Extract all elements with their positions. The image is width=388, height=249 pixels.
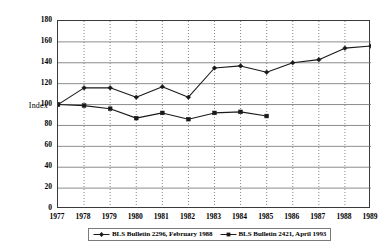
data-point-marker xyxy=(213,111,217,115)
data-point-marker xyxy=(239,110,243,114)
y-tick-label: 100 xyxy=(28,100,52,108)
y-tick-label: 80 xyxy=(28,120,52,128)
data-point-marker xyxy=(317,57,322,62)
line-chart-figure: Index 020406080100120140160180 197719781… xyxy=(0,0,388,249)
data-point-marker xyxy=(238,64,243,69)
chart-legend: BLS Bulletin 2296, February 1988BLS Bull… xyxy=(88,228,331,241)
y-tick-label: 160 xyxy=(28,37,52,45)
y-tick-label: 60 xyxy=(28,141,52,149)
x-tick-label: 1989 xyxy=(353,212,387,221)
data-point-marker xyxy=(134,95,139,100)
data-point-marker xyxy=(160,85,165,90)
plot-svg xyxy=(58,21,371,209)
y-tick-label: 40 xyxy=(28,162,52,170)
legend-label: BLS Bulletin 2421, April 1993 xyxy=(239,230,327,239)
data-point-marker xyxy=(290,60,295,65)
data-point-marker xyxy=(264,70,269,75)
data-point-marker xyxy=(108,86,113,91)
y-tick-label: 140 xyxy=(28,58,52,66)
legend-marker-icon xyxy=(93,230,110,239)
data-point-marker xyxy=(187,117,191,121)
data-point-marker xyxy=(82,104,86,108)
legend-entry-2[interactable]: BLS Bulletin 2421, April 1993 xyxy=(220,230,327,239)
data-point-marker xyxy=(160,111,164,115)
plot-area xyxy=(57,20,370,208)
legend-entry-1[interactable]: BLS Bulletin 2296, February 1988 xyxy=(93,230,213,239)
data-point-marker xyxy=(369,44,371,49)
data-series-group xyxy=(58,44,371,121)
y-tick-label: 20 xyxy=(28,183,52,191)
data-point-marker xyxy=(265,114,269,118)
data-point-marker xyxy=(108,107,112,111)
legend-label: BLS Bulletin 2296, February 1988 xyxy=(112,230,213,239)
y-tick-label: 180 xyxy=(28,16,52,24)
y-tick-label: 0 xyxy=(28,204,52,212)
data-point-marker xyxy=(343,46,348,51)
data-series-2 xyxy=(58,103,269,121)
data-point-marker xyxy=(134,116,138,120)
legend-marker-icon xyxy=(220,230,237,239)
data-point-marker xyxy=(58,103,60,107)
y-tick-label: 120 xyxy=(28,79,52,87)
